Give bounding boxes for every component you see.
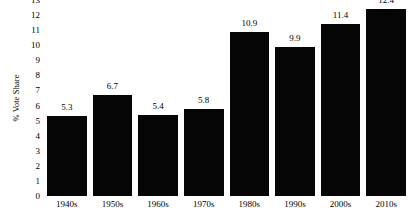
y-axis-tick: 2 [36,161,41,170]
bar-value-label: 9.9 [289,34,300,43]
bar-value-label: 5.8 [198,96,209,105]
x-axis-tick: 1960s [135,199,181,210]
bar[interactable] [321,24,361,196]
y-axis-tick: 9 [36,56,41,65]
y-axis-tick: 6 [36,101,41,110]
bar[interactable] [230,32,270,196]
y-axis-title-label: % Vote Share [11,74,21,121]
bar-value-label: 5.3 [61,103,72,112]
bar-value-label: 12.4 [378,0,394,5]
y-axis-tick: 12 [31,11,40,20]
bar-group: 12.4 [366,0,406,196]
bar-group: 11.4 [321,0,361,196]
bar-group: 10.9 [230,0,270,196]
x-axis-tick: 2000s [318,199,364,210]
y-axis-tick: 10 [31,41,40,50]
x-axis-tick: 1990s [272,199,318,210]
y-axis-tick: 5 [36,116,41,125]
bar[interactable] [93,95,133,196]
y-axis-tick: 1 [36,176,41,185]
plot-area: 5.36.75.45.810.99.911.412.4 [44,0,409,196]
bar-value-label: 5.4 [152,102,163,111]
bar[interactable] [47,116,87,196]
bar-chart: % Vote Share 012345678910111213 5.36.75.… [0,0,413,223]
y-axis-tick: 3 [36,146,41,155]
bar[interactable] [275,47,315,196]
y-axis-tick: 8 [36,71,41,80]
bar-value-label: 11.4 [333,11,348,20]
x-axis-tick: 1980s [227,199,273,210]
bar-value-label: 10.9 [241,19,257,28]
y-axis-tick: 0 [36,192,41,201]
bar[interactable] [138,115,178,196]
y-axis-tick: 13 [31,0,40,5]
x-axis-tick: 1940s [44,199,90,210]
y-axis-tick: 11 [31,26,40,35]
bar[interactable] [366,9,406,196]
x-axis-tick: 2010s [363,199,409,210]
bar-group: 5.3 [47,0,87,196]
y-axis-tick: 7 [36,86,41,95]
bar-group: 9.9 [275,0,315,196]
y-axis-tick-labels: 012345678910111213 [22,0,40,196]
bar[interactable] [184,109,224,196]
bar-group: 6.7 [93,0,133,196]
x-axis-tick: 1970s [181,199,227,210]
x-axis-tick: 1950s [90,199,136,210]
bar-group: 5.4 [138,0,178,196]
bar-group: 5.8 [184,0,224,196]
bar-value-label: 6.7 [107,82,118,91]
y-axis-tick: 4 [36,131,41,140]
x-axis-tick-labels: 1940s1950s1960s1970s1980s1990s2000s2010s [44,199,409,215]
